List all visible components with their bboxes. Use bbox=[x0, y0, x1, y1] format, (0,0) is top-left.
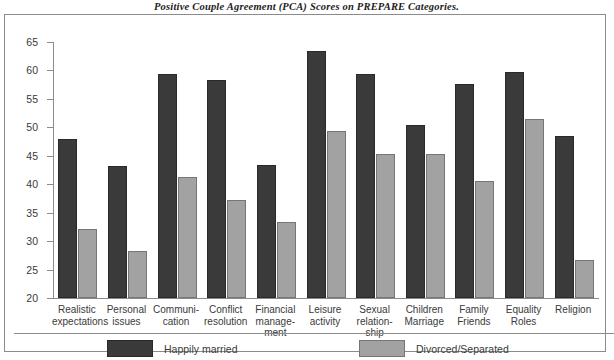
bar-divorced-separated bbox=[575, 260, 594, 298]
bar-divorced-separated bbox=[227, 200, 246, 298]
y-axis-tick: 65 bbox=[47, 42, 53, 43]
bar-happily-married bbox=[406, 125, 425, 299]
bar-group bbox=[356, 42, 395, 298]
legend-item[interactable]: Divorced/Separated bbox=[359, 340, 509, 357]
bar-group bbox=[455, 42, 494, 298]
x-axis-category-label: Religion bbox=[548, 304, 598, 316]
legend-item[interactable]: Happily married bbox=[107, 340, 238, 357]
bar-happily-married bbox=[356, 74, 375, 298]
y-axis-tick: 25 bbox=[47, 270, 53, 271]
y-axis-tick: 20 bbox=[47, 298, 53, 299]
y-axis-tick-label: 50 bbox=[26, 121, 38, 133]
x-axis-category-label: FamilyFriends bbox=[449, 304, 499, 327]
y-axis-tick: 50 bbox=[47, 127, 53, 128]
y-axis-tick: 30 bbox=[47, 241, 53, 242]
bar-divorced-separated bbox=[426, 154, 445, 298]
bar-group bbox=[158, 42, 197, 298]
y-axis-tick-label: 40 bbox=[26, 178, 38, 190]
bar-divorced-separated bbox=[78, 229, 97, 298]
x-axis-category-label: Realisticexpectations bbox=[52, 304, 102, 327]
bar-happily-married bbox=[108, 166, 127, 298]
bar-happily-married bbox=[505, 72, 524, 298]
bar-happily-married bbox=[555, 136, 574, 298]
bar-divorced-separated bbox=[376, 154, 395, 298]
category-label-line: Conflict bbox=[201, 304, 251, 316]
bar-group bbox=[307, 42, 346, 298]
y-axis-tick-label: 60 bbox=[26, 64, 38, 76]
legend-swatch-icon bbox=[107, 340, 153, 357]
bar-happily-married bbox=[207, 80, 226, 298]
category-label-line: Religion bbox=[548, 304, 598, 316]
x-axis-category-label: EqualityRoles bbox=[499, 304, 549, 327]
category-label-line: Financial bbox=[251, 304, 301, 316]
bar-group bbox=[257, 42, 296, 298]
bar-group bbox=[555, 42, 594, 298]
y-axis-tick: 55 bbox=[47, 99, 53, 100]
legend-swatch-icon bbox=[359, 340, 405, 357]
category-label-line: Roles bbox=[499, 316, 549, 328]
figure-frame: 65605550454035302520 Realisticexpectatio… bbox=[4, 14, 606, 352]
category-label-line: Leisure bbox=[300, 304, 350, 316]
y-axis-tick: 40 bbox=[47, 184, 53, 185]
category-label-line: cation bbox=[151, 316, 201, 328]
category-label-line: Friends bbox=[449, 316, 499, 328]
category-label-line: Equality bbox=[499, 304, 549, 316]
y-axis-tick-label: 45 bbox=[26, 150, 38, 162]
x-axis-line bbox=[53, 298, 599, 299]
category-label-line: resolution bbox=[201, 316, 251, 328]
legend-label: Happily married bbox=[164, 343, 238, 355]
x-axis-category-label: Communi-cation bbox=[151, 304, 201, 327]
category-label-line: activity bbox=[300, 316, 350, 328]
category-label-line: Realistic bbox=[52, 304, 102, 316]
category-label-line: Family bbox=[449, 304, 499, 316]
x-axis-category-label: Leisureactivity bbox=[300, 304, 350, 327]
bar-happily-married bbox=[158, 74, 177, 298]
x-axis-category-label: Conflictresolution bbox=[201, 304, 251, 327]
bar-group bbox=[207, 42, 246, 298]
bar-happily-married bbox=[307, 51, 326, 298]
bar-group bbox=[58, 42, 97, 298]
category-label-line: Marriage bbox=[399, 316, 449, 328]
bar-divorced-separated bbox=[525, 119, 544, 298]
bar-group bbox=[406, 42, 445, 298]
bar-group bbox=[505, 42, 544, 298]
category-label-line: Children bbox=[399, 304, 449, 316]
y-axis-tick-label: 55 bbox=[26, 93, 38, 105]
category-label-line: Personal bbox=[102, 304, 152, 316]
bar-group bbox=[108, 42, 147, 298]
category-label-line: Communi- bbox=[151, 304, 201, 316]
legend-divider bbox=[14, 333, 614, 334]
y-axis-tick-label: 20 bbox=[26, 292, 38, 304]
y-axis-tick-label: 65 bbox=[26, 36, 38, 48]
legend-label: Divorced/Separated bbox=[416, 343, 509, 355]
bar-divorced-separated bbox=[128, 251, 147, 298]
chart-legend: Happily marriedDivorced/Separated bbox=[9, 333, 611, 360]
y-axis-tick: 60 bbox=[47, 70, 53, 71]
y-axis-tick: 35 bbox=[47, 213, 53, 214]
y-axis-line bbox=[53, 42, 54, 299]
bar-divorced-separated bbox=[327, 131, 346, 298]
plot-area: 65605550454035302520 bbox=[53, 42, 599, 299]
x-axis-category-label: Personalissues bbox=[102, 304, 152, 327]
y-axis-tick-label: 25 bbox=[26, 264, 38, 276]
category-label-line: manage- bbox=[251, 316, 301, 328]
y-axis-tick-label: 30 bbox=[26, 235, 38, 247]
bar-happily-married bbox=[455, 84, 474, 298]
bar-happily-married bbox=[58, 139, 77, 298]
category-label-line: relation- bbox=[350, 316, 400, 328]
bar-divorced-separated bbox=[178, 177, 197, 298]
y-axis-tick: 45 bbox=[47, 156, 53, 157]
bar-happily-married bbox=[257, 165, 276, 298]
category-label-line: issues bbox=[102, 316, 152, 328]
category-label-line: expectations bbox=[52, 316, 102, 328]
x-axis-category-label: ChildrenMarriage bbox=[399, 304, 449, 327]
bar-divorced-separated bbox=[475, 181, 494, 298]
y-axis-tick-label: 35 bbox=[26, 207, 38, 219]
category-label-line: Sexual bbox=[350, 304, 400, 316]
bar-divorced-separated bbox=[277, 222, 296, 298]
figure-title: Positive Couple Agreement (PCA) Scores o… bbox=[0, 0, 613, 14]
